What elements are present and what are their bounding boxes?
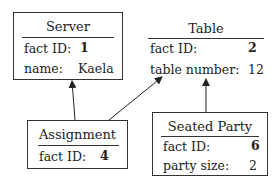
title-divider xyxy=(22,37,114,38)
entity-title: Table xyxy=(145,21,267,36)
arrow-assignment-to-server xyxy=(72,81,75,120)
field-label: table number: xyxy=(150,62,239,77)
field-value: 6 xyxy=(251,138,260,153)
field-label: name: xyxy=(24,61,63,76)
field-value: 4 xyxy=(100,148,109,163)
title-divider xyxy=(38,145,119,146)
entity-title: Server xyxy=(14,19,122,34)
title-divider xyxy=(148,38,264,39)
field-value: 12 xyxy=(248,62,264,77)
entity-table: Table fact ID: 2 table number: 12 xyxy=(145,12,267,78)
entity-assignment: Assignment fact ID: 4 xyxy=(27,120,128,169)
field-value: 2 xyxy=(248,40,257,55)
entity-title: Seated Party xyxy=(153,119,267,134)
field-value: Kaela xyxy=(78,61,114,76)
field-label: fact ID: xyxy=(163,139,210,154)
field-label: fact ID: xyxy=(24,41,71,56)
field-label: fact ID: xyxy=(39,149,86,164)
field-value: 1 xyxy=(80,40,89,55)
entity-server: Server fact ID: 1 name: Kaela xyxy=(13,12,123,80)
entity-title: Assignment xyxy=(28,127,127,142)
field-label: party size: xyxy=(163,158,229,173)
field-label: fact ID: xyxy=(150,41,197,56)
title-divider xyxy=(161,136,259,137)
field-value: 2 xyxy=(249,158,257,173)
entity-seated-party: Seated Party fact ID: 6 party size: 2 xyxy=(152,112,268,176)
